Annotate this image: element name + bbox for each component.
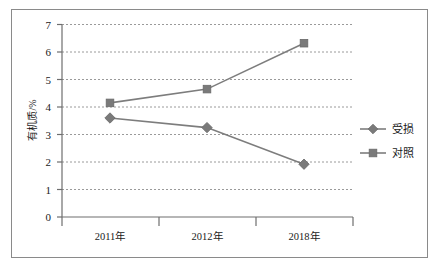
- chart-legend: 受损 对照: [360, 122, 414, 159]
- y-tick-label-6: 6: [46, 46, 52, 58]
- x-category-label-2012: 2012年: [192, 230, 223, 242]
- legend-entry-shousun[interactable]: 受损: [360, 122, 414, 135]
- gridlines: [62, 25, 353, 190]
- y-tick-label-4: 4: [46, 101, 52, 113]
- data-point-duizhao-2011: [106, 99, 114, 107]
- line-chart: 7 6 5 4 3 2 1 0 有机质/% 2011年 2012年 2018年: [0, 0, 443, 274]
- y-tick-label-7: 7: [46, 19, 52, 31]
- series-shousun: [105, 113, 309, 170]
- data-point-shousun-2011: [105, 113, 115, 123]
- data-point-duizhao-2018: [300, 39, 308, 47]
- legend-label-duizhao: 对照: [392, 146, 414, 159]
- y-tick-label-1: 1: [46, 184, 52, 196]
- x-axis: 2011年 2012年 2018年: [62, 217, 353, 242]
- y-tick-label-3: 3: [46, 129, 52, 141]
- y-axis-title: 有机质/%: [26, 99, 38, 140]
- y-tick-label-2: 2: [46, 156, 52, 168]
- y-axis: 7 6 5 4 3 2 1 0 有机质/%: [26, 19, 62, 224]
- legend-entry-duizhao[interactable]: 对照: [360, 146, 414, 159]
- x-category-label-2011: 2011年: [95, 230, 126, 242]
- x-category-label-2018: 2018年: [289, 230, 320, 242]
- legend-marker-diamond-icon: [368, 124, 378, 134]
- data-point-shousun-2012: [202, 122, 212, 132]
- y-tick-label-0: 0: [46, 211, 52, 223]
- series-duizhao: [106, 39, 308, 106]
- y-tick-label-5: 5: [46, 74, 52, 86]
- data-point-shousun-2018: [299, 159, 309, 169]
- legend-label-shousun: 受损: [392, 122, 414, 135]
- legend-marker-square-icon: [369, 149, 377, 157]
- data-point-duizhao-2012: [203, 85, 211, 93]
